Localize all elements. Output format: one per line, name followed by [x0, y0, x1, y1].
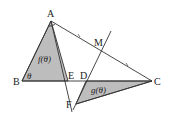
- label-a: A: [47, 8, 55, 19]
- label-c: C: [154, 76, 161, 87]
- label-e: E: [68, 70, 74, 81]
- label-theta-angle: θ: [27, 71, 32, 81]
- label-g-theta: g(θ): [91, 85, 106, 95]
- tick-mark-am: [78, 34, 80, 37]
- label-f-theta: f(θ): [38, 54, 51, 64]
- label-m: M: [94, 37, 103, 48]
- label-f: F: [66, 99, 72, 110]
- label-b: B: [13, 76, 20, 87]
- label-d: D: [80, 70, 87, 81]
- geometry-figure: A B C E D F M f(θ) g(θ) θ: [0, 0, 171, 124]
